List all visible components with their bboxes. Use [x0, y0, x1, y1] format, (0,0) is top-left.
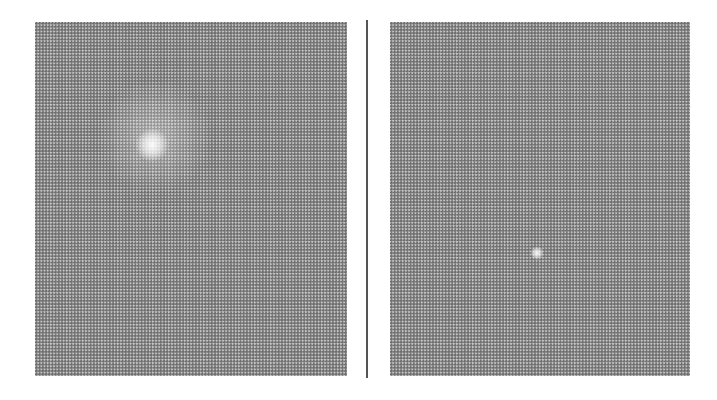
- right-halftone-panel: [390, 22, 690, 376]
- left-bright-spot: [135, 128, 169, 162]
- right-bright-spot: [530, 246, 544, 260]
- panel-divider: [366, 20, 368, 378]
- left-halftone-panel: [35, 22, 347, 376]
